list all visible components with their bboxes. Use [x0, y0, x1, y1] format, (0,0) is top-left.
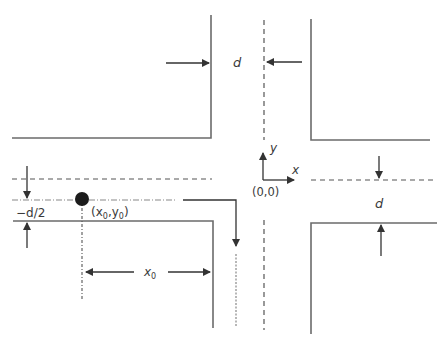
label-d-top: d [233, 55, 242, 70]
centerlines [12, 20, 434, 330]
bottom-left-corner [13, 221, 213, 328]
road-boundaries [12, 15, 437, 334]
label-axis-x: x [291, 163, 300, 177]
coordinate-axes: y x (0,0) [252, 141, 300, 199]
top-right-corner [311, 19, 430, 140]
ball-marker [75, 192, 89, 206]
label-axis-y: y [269, 141, 278, 155]
label-x0: x0 [143, 265, 156, 281]
label-origin: (0,0) [252, 185, 279, 199]
top-left-corner [12, 15, 211, 138]
label-minus-d-half: −d/2 [16, 206, 45, 220]
label-d-right: d [375, 196, 384, 211]
turn-path [183, 200, 236, 246]
bottom-right-corner [311, 223, 437, 334]
label-ball-position: (x0,y0) [91, 205, 129, 221]
intersection-diagram: d d −d/2 (x0,y0) x0 y x (0,0) [0, 0, 448, 340]
